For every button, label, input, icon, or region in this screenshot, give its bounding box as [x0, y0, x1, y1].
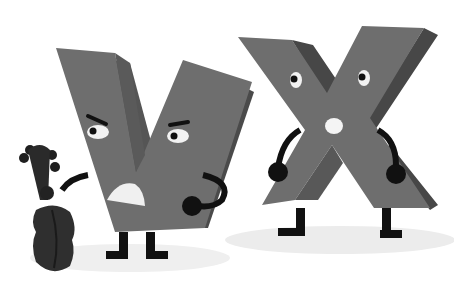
v-right-hand — [182, 196, 202, 216]
x-right-eye — [358, 70, 370, 86]
v-left-arm — [62, 175, 88, 190]
x-mouth — [325, 118, 343, 134]
violin — [19, 145, 75, 271]
illustration: Cartoon letters V and X — [0, 0, 454, 286]
x-left-eye — [290, 72, 302, 88]
v-letter-face — [56, 48, 252, 232]
x-shadow — [225, 226, 454, 254]
illustration-canvas — [0, 0, 454, 286]
x-character — [238, 26, 438, 238]
x-right-hand — [386, 164, 406, 184]
x-left-hand — [268, 162, 288, 182]
v-character — [56, 48, 254, 259]
